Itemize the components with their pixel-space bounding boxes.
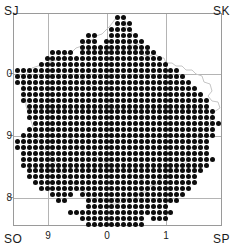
- distribution-dot: [127, 104, 132, 109]
- distribution-dot: [50, 50, 55, 55]
- distribution-dot: [145, 127, 150, 132]
- distribution-dot: [168, 174, 173, 179]
- distribution-dot: [109, 39, 114, 44]
- plot-frame: [13, 13, 222, 226]
- distribution-dot: [80, 157, 85, 162]
- distribution-dot: [21, 98, 26, 103]
- distribution-dot: [145, 115, 150, 120]
- distribution-dot: [115, 216, 120, 221]
- distribution-dot: [62, 68, 67, 73]
- distribution-dot: [163, 92, 168, 97]
- distribution-dot: [104, 109, 109, 114]
- distribution-dot: [157, 210, 162, 215]
- distribution-dot: [151, 210, 156, 215]
- distribution-dot: [174, 68, 179, 73]
- distribution-dot: [74, 121, 79, 126]
- distribution-dot: [80, 104, 85, 109]
- distribution-dot: [27, 115, 32, 120]
- distribution-dot: [180, 192, 185, 197]
- distribution-dot: [168, 109, 173, 114]
- distribution-dot: [163, 174, 168, 179]
- distribution-dot: [151, 174, 156, 179]
- distribution-dot: [45, 157, 50, 162]
- distribution-dot: [74, 151, 79, 156]
- distribution-dot: [68, 127, 73, 132]
- distribution-dot: [62, 180, 67, 185]
- distribution-dot: [121, 104, 126, 109]
- distribution-dot: [192, 139, 197, 144]
- distribution-dot: [86, 109, 91, 114]
- distribution-dot: [104, 86, 109, 91]
- distribution-dot: [121, 39, 126, 44]
- distribution-dot: [62, 80, 67, 85]
- distribution-dot: [115, 139, 120, 144]
- distribution-dot: [21, 74, 26, 79]
- distribution-dot: [74, 109, 79, 114]
- distribution-dot: [98, 157, 103, 162]
- distribution-dot: [45, 56, 50, 61]
- distribution-dot: [27, 109, 32, 114]
- distribution-dot: [104, 168, 109, 173]
- distribution-dot: [92, 33, 97, 38]
- distribution-dot: [39, 151, 44, 156]
- distribution-dot: [145, 98, 150, 103]
- grid-square-label-sj: SJ: [4, 5, 19, 17]
- distribution-dot: [151, 186, 156, 191]
- distribution-dot: [151, 151, 156, 156]
- distribution-dot: [133, 45, 138, 50]
- y-axis-tick-label-9: 9: [0, 131, 12, 141]
- distribution-dot: [74, 80, 79, 85]
- distribution-dot: [121, 204, 126, 209]
- distribution-dot: [210, 127, 215, 132]
- distribution-dot: [198, 163, 203, 168]
- distribution-dot: [80, 133, 85, 138]
- distribution-dot: [163, 68, 168, 73]
- distribution-dot: [68, 62, 73, 67]
- distribution-dot: [186, 186, 191, 191]
- distribution-dot: [98, 56, 103, 61]
- x-axis-tick-label-9: 9: [41, 231, 55, 241]
- distribution-dot: [157, 139, 162, 144]
- distribution-dot: [168, 192, 173, 197]
- distribution-dot: [145, 121, 150, 126]
- distribution-dot: [92, 133, 97, 138]
- distribution-dot: [133, 74, 138, 79]
- distribution-dot: [104, 74, 109, 79]
- distribution-dot: [56, 56, 61, 61]
- distribution-dot: [180, 145, 185, 150]
- distribution-dot: [50, 104, 55, 109]
- distribution-dot: [115, 92, 120, 97]
- distribution-dot: [68, 139, 73, 144]
- grid-square-label-sk: SK: [213, 5, 230, 17]
- distribution-dot: [74, 157, 79, 162]
- distribution-dot: [174, 80, 179, 85]
- distribution-dot: [45, 80, 50, 85]
- distribution-dot: [62, 139, 67, 144]
- distribution-dot: [151, 163, 156, 168]
- distribution-dot: [98, 174, 103, 179]
- distribution-dot: [139, 163, 144, 168]
- distribution-dot: [62, 56, 67, 61]
- distribution-dot: [104, 68, 109, 73]
- distribution-dot: [204, 109, 209, 114]
- distribution-dot: [139, 50, 144, 55]
- distribution-dot: [121, 15, 126, 20]
- distribution-dot: [80, 174, 85, 179]
- distribution-dot: [168, 86, 173, 91]
- distribution-dot: [56, 104, 61, 109]
- distribution-dot: [174, 109, 179, 114]
- distribution-dot: [168, 98, 173, 103]
- distribution-dot: [115, 180, 120, 185]
- distribution-dot: [115, 86, 120, 91]
- distribution-dot: [86, 104, 91, 109]
- distribution-dot: [92, 204, 97, 209]
- distribution-dot: [109, 74, 114, 79]
- distribution-dot: [210, 115, 215, 120]
- distribution-dot: [127, 198, 132, 203]
- distribution-dot: [133, 204, 138, 209]
- distribution-dot: [157, 216, 162, 221]
- distribution-dot: [180, 104, 185, 109]
- distribution-dot: [39, 174, 44, 179]
- distribution-dot: [39, 180, 44, 185]
- distribution-dot: [56, 80, 61, 85]
